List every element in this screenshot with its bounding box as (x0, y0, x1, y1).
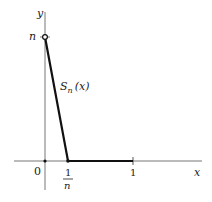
graph-canvas: y x n 0 1 n 1 Sn(x) (0, 0, 212, 202)
one-over-n-numerator: 1 (65, 167, 71, 178)
y-axis-label: y (36, 7, 44, 20)
y-tick-n-label: n (29, 30, 36, 43)
curve-label: Sn(x) (60, 80, 90, 95)
origin-label: 0 (34, 165, 41, 178)
origin-dot (43, 159, 46, 162)
open-point-marker (43, 35, 48, 40)
x-axis-label: x (194, 166, 201, 179)
function-curve (45, 37, 133, 161)
one-over-n-denominator: n (64, 180, 70, 191)
x-tick-1-label: 1 (130, 167, 136, 178)
one-over-n-dot (66, 159, 70, 163)
